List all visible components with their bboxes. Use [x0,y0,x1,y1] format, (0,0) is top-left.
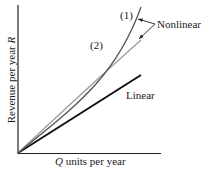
linear-label: Linear [126,89,155,101]
y-axis-label: Revenue per year R [5,25,17,135]
y-axis-text: Revenue per year [5,44,17,124]
nonlinear-label: Nonlinear [157,18,201,30]
nonlinear-curve-1 [18,7,141,153]
linear-line [18,75,141,153]
nonlinear-curve-2 [18,40,141,153]
curve-2-label: (2) [90,39,103,51]
curve-1-label: (1) [120,9,133,21]
x-axis-text: units per year [63,155,126,167]
arrowhead-1-icon [138,19,143,23]
x-axis-variable: Q [55,155,63,167]
y-axis-variable: R [5,37,17,44]
x-axis-label: Q units per year [55,155,126,167]
